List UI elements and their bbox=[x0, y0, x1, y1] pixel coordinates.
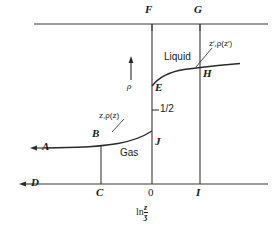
x-axis-title-numerator: z bbox=[144, 204, 148, 212]
x-axis-title: lnzӡ bbox=[136, 204, 148, 221]
region-label-liquid: Liquid bbox=[164, 52, 191, 62]
x-axis-title-ln: ln bbox=[136, 206, 144, 217]
point-label-F: F bbox=[145, 4, 152, 15]
point-label-A: A bbox=[42, 141, 49, 152]
point-label-E: E bbox=[155, 82, 162, 93]
axis-tick-label-I: I bbox=[196, 187, 200, 198]
rho-arrow-head-icon bbox=[129, 56, 134, 63]
axis-tick-label-half: 1/2 bbox=[160, 104, 174, 114]
point-label-G: G bbox=[194, 4, 202, 15]
axis-tick-label-zero: 0 bbox=[148, 187, 154, 198]
gas-annotation-leader bbox=[112, 119, 124, 132]
region-label-gas: Gas bbox=[120, 148, 138, 158]
point-label-J: J bbox=[155, 136, 161, 147]
axis-tick-label-C: C bbox=[96, 187, 103, 198]
point-label-B: B bbox=[92, 128, 99, 139]
annotation-liquid-state: z′,ρ(z′) bbox=[209, 40, 232, 48]
point-label-H: H bbox=[203, 68, 212, 79]
x-axis-title-fraction: zӡ bbox=[144, 204, 148, 221]
x-axis-title-denominator: ӡ bbox=[144, 212, 148, 221]
diagram-canvas bbox=[0, 0, 278, 228]
d-arrow-head-icon bbox=[19, 181, 26, 186]
point-label-D: D bbox=[31, 177, 39, 188]
rho-axis-symbol: ρ bbox=[127, 82, 131, 91]
liquid-annotation-leader bbox=[196, 48, 212, 67]
annotation-gas-state: z,ρ(z) bbox=[99, 112, 119, 120]
a-arrow-head-icon bbox=[30, 145, 37, 150]
phase-diagram-figure: F G E H J B A D C 0 I 1/2 ρ Gas Liquid z… bbox=[0, 0, 278, 228]
